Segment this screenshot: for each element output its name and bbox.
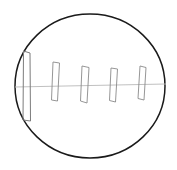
figure-container <box>0 0 177 170</box>
centerline-axis <box>15 84 166 87</box>
blade-5 <box>138 66 146 100</box>
blade-2 <box>52 62 60 101</box>
blade-3 <box>81 66 90 103</box>
housing-outline-circle <box>15 14 165 158</box>
technical-line-drawing <box>0 0 177 170</box>
blade-1 <box>23 51 31 121</box>
